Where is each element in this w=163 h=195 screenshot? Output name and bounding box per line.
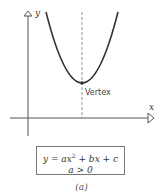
y-axis-label: y	[34, 8, 41, 18]
equation-suffix: + bx + c	[76, 154, 118, 164]
vertex-label: Vertex	[85, 88, 111, 97]
vertex-point	[80, 81, 84, 85]
x-axis-arrow-icon	[148, 113, 154, 123]
equation-prefix: y = ax	[43, 154, 72, 164]
figure-caption: (a)	[0, 182, 163, 192]
equation-box: y = ax2 + bx + c a > 0	[36, 146, 125, 175]
caption-text: (a)	[75, 182, 87, 192]
equation-line-1: y = ax2 + bx + c	[37, 150, 124, 165]
equation-line-2: a > 0	[37, 165, 124, 176]
condition-text: a > 0	[68, 165, 92, 175]
y-axis-arrow-icon	[24, 11, 32, 16]
x-axis-label: x	[149, 102, 154, 112]
